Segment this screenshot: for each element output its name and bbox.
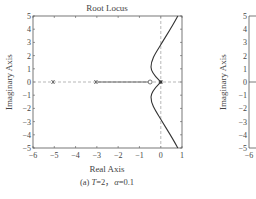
y-axis-label-2: Imaginary Axis bbox=[218, 54, 228, 110]
x-tick-label: 0 bbox=[159, 151, 163, 160]
pole-origin-marker bbox=[159, 81, 162, 84]
root-locus-figure: Root Locus −6−5−4−3−2−101 543210−1−2−3−4… bbox=[0, 0, 256, 199]
y-tick-label: 4 bbox=[243, 25, 247, 34]
y-tick-label: 3 bbox=[27, 38, 31, 47]
y-tick-label: 0 bbox=[243, 78, 247, 87]
x-tick-label: −2 bbox=[114, 151, 123, 160]
y-tick-labels-2: 543210−1−2−3−4−5 bbox=[238, 12, 247, 153]
figure-caption: (a) T=2，α=0.1 bbox=[80, 177, 134, 187]
y-tick-label: −1 bbox=[238, 91, 247, 100]
x-tick-labels: −6−5−4−3−2−101 bbox=[29, 151, 184, 160]
y-tick-label: −4 bbox=[238, 131, 247, 140]
zero-marker-icon bbox=[148, 80, 152, 84]
y-tick-label: 1 bbox=[27, 65, 31, 74]
y-tick-label: −1 bbox=[22, 91, 31, 100]
y-tick-label: 4 bbox=[27, 25, 31, 34]
y-tick-label: −2 bbox=[238, 104, 247, 113]
y-tick-label: −3 bbox=[22, 118, 31, 127]
y-tick-label: 2 bbox=[243, 52, 247, 61]
x-tick-label: 1 bbox=[180, 151, 184, 160]
y-tick-label: −5 bbox=[22, 144, 31, 153]
x-tick-label: −3 bbox=[93, 151, 102, 160]
x-tick-label: −1 bbox=[135, 151, 144, 160]
y-axis-label: Imaginary Axis bbox=[4, 54, 14, 110]
locus-upper-branch bbox=[151, 16, 178, 82]
y-tick-label: −2 bbox=[22, 104, 31, 113]
y-tick-label: −4 bbox=[22, 131, 31, 140]
x-axis-label: Real Axis bbox=[89, 164, 125, 174]
locus-lower-branch bbox=[151, 82, 178, 148]
x-tick-label-2: −6 bbox=[245, 151, 254, 160]
y-tick-label: 3 bbox=[243, 38, 247, 47]
x-tick-label: −4 bbox=[71, 151, 80, 160]
chart-title: Root Locus bbox=[86, 3, 128, 13]
y-tick-label: −3 bbox=[238, 118, 247, 127]
y-tick-label: 5 bbox=[243, 12, 247, 21]
y-tick-label: 1 bbox=[243, 65, 247, 74]
y-tick-labels: 543210−1−2−3−4−5 bbox=[22, 12, 31, 153]
y-tick-label: 0 bbox=[27, 78, 31, 87]
y-tick-label: 5 bbox=[27, 12, 31, 21]
x-tick-label: −5 bbox=[50, 151, 59, 160]
y-tick-label: 2 bbox=[27, 52, 31, 61]
